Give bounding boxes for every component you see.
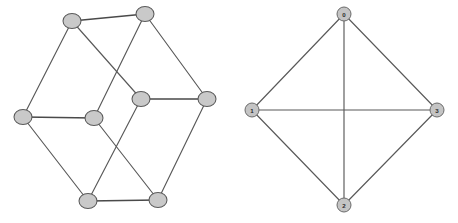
graph-edge — [88, 200, 158, 201]
graph-node[interactable] — [149, 193, 167, 208]
graph-node[interactable] — [79, 194, 97, 209]
graph-node[interactable] — [430, 103, 444, 117]
graph-node[interactable] — [136, 7, 154, 22]
graph-node[interactable] — [245, 103, 259, 117]
graph-node[interactable] — [63, 14, 81, 29]
graph-node[interactable] — [337, 198, 351, 212]
graph-node[interactable] — [337, 7, 351, 21]
figure-background — [0, 0, 458, 223]
graph-node[interactable] — [198, 92, 216, 107]
graph-node[interactable] — [85, 111, 103, 126]
graph-edge — [23, 117, 94, 118]
figure-canvas: 0123 — [0, 0, 458, 223]
graph-node[interactable] — [14, 110, 32, 125]
graph-node[interactable] — [132, 92, 150, 107]
graph-figure-svg: 0123 — [0, 0, 458, 223]
